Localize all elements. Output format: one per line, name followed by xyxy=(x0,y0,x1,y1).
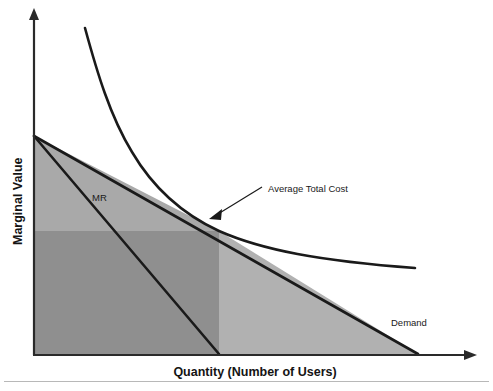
x-axis-title: Quantity (Number of Users) xyxy=(173,365,336,379)
y-axis-title: Marginal Value xyxy=(11,157,25,245)
mr-label: MR xyxy=(92,192,107,203)
chart-figure: Average Total Cost MR Demand Marginal Va… xyxy=(0,0,493,391)
monopoly-profit-rectangle xyxy=(34,231,219,354)
economics-chart-svg: Average Total Cost MR Demand Marginal Va… xyxy=(0,0,493,391)
y-axis-arrowhead xyxy=(29,8,39,20)
footer-divider xyxy=(4,381,489,382)
average-total-cost-label: Average Total Cost xyxy=(268,183,348,194)
average-total-cost-annotation: Average Total Cost xyxy=(209,183,348,220)
demand-label: Demand xyxy=(391,317,427,328)
deadweight-loss-region xyxy=(219,231,418,354)
atc-leader-line xyxy=(218,187,262,214)
atc-arrowhead xyxy=(209,209,222,220)
x-axis-arrowhead xyxy=(464,350,477,360)
